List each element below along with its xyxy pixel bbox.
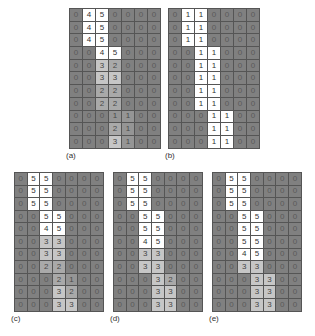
grid-cell: 1: [109, 111, 121, 123]
grid-cell: 0: [289, 198, 301, 210]
grid-cell: 0: [177, 299, 189, 311]
grid-cell: 3: [152, 299, 164, 311]
grid-cell: 1: [182, 34, 194, 46]
grid-cell: 0: [135, 47, 147, 59]
grid-cell: 4: [40, 223, 52, 235]
grid-cell: 0: [190, 261, 202, 273]
grid-cell: 0: [109, 34, 121, 46]
grid-cell: 0: [114, 236, 126, 248]
grid-cell: 0: [96, 123, 108, 135]
grid-cell: 0: [276, 274, 288, 286]
grid-cell: 3: [251, 299, 263, 311]
grid-cell: 3: [109, 136, 121, 148]
grid-cell: 0: [152, 198, 164, 210]
grid-cell: 5: [251, 211, 263, 223]
grid-cell: 3: [139, 249, 151, 261]
grid-e: 0550000055000005500000055000005500000550…: [212, 172, 302, 312]
grid-cell: 0: [177, 186, 189, 198]
grid-cell: 0: [165, 249, 177, 261]
grid-cell: 0: [122, 9, 134, 21]
grid-cell: 0: [114, 261, 126, 273]
grid-cell: 5: [40, 211, 52, 223]
grid-cell: 1: [221, 111, 233, 123]
grid-cell: 0: [289, 286, 301, 298]
grid-cell: 5: [40, 198, 52, 210]
grid-cell: 0: [289, 299, 301, 311]
grid-cell: 0: [70, 60, 82, 72]
grid-cell: 0: [165, 261, 177, 273]
grid-cell: 5: [238, 198, 250, 210]
grid-cell: 1: [208, 111, 220, 123]
grid-cell: 3: [53, 236, 65, 248]
grid-cell: 0: [177, 261, 189, 273]
grid-cell: 1: [195, 60, 207, 72]
grid-cell: 5: [28, 173, 40, 185]
grid-cell: 0: [276, 173, 288, 185]
panel-label-e: (e): [209, 314, 219, 323]
grid-cell: 0: [148, 47, 160, 59]
grid-d: 0550000055000005500000055000005500000450…: [113, 172, 203, 312]
grid-cell: 3: [40, 236, 52, 248]
grid-cell: 0: [169, 9, 181, 21]
grid-cell: 0: [234, 22, 246, 34]
grid-cell: 0: [91, 249, 103, 261]
grid-cell: 0: [127, 261, 139, 273]
grid-cell: 0: [70, 111, 82, 123]
grid-cell: 0: [264, 236, 276, 248]
grid-cell: 0: [66, 236, 78, 248]
grid-cell: 0: [96, 111, 108, 123]
panel-label-c: (c): [11, 314, 20, 323]
grid-cell: 0: [190, 236, 202, 248]
grid-cell: 1: [195, 34, 207, 46]
grid-cell: 5: [139, 186, 151, 198]
grid-cell: 0: [122, 85, 134, 97]
grid-cell: 0: [83, 98, 95, 110]
grid-cell: 2: [109, 123, 121, 135]
grid-cell: 0: [221, 98, 233, 110]
grid-cell: 5: [238, 173, 250, 185]
panel-d: 0550000055000005500000055000005500000450…: [113, 172, 203, 312]
grid-cell: 0: [289, 274, 301, 286]
grid-cell: 0: [122, 98, 134, 110]
grid-cell: 5: [127, 198, 139, 210]
grid-cell: 0: [91, 261, 103, 273]
grid-b: 0110000011000001100000011000001100000110…: [168, 8, 260, 149]
grid-cell: 5: [238, 223, 250, 235]
grid-cell: 0: [135, 34, 147, 46]
grid-cell: 3: [251, 261, 263, 273]
grid-cell: 1: [195, 22, 207, 34]
grid-cell: 0: [247, 85, 259, 97]
grid-cell: 0: [91, 274, 103, 286]
grid-cell: 3: [152, 286, 164, 298]
grid-cell: 0: [190, 198, 202, 210]
grid-cell: 0: [190, 211, 202, 223]
grid-cell: 0: [289, 173, 301, 185]
grid-cell: 0: [213, 261, 225, 273]
grid-cell: 0: [234, 123, 246, 135]
grid-cell: 0: [122, 60, 134, 72]
grid-cell: 0: [169, 85, 181, 97]
grid-cell: 0: [135, 136, 147, 148]
grid-cell: 2: [96, 98, 108, 110]
grid-cell: 0: [177, 173, 189, 185]
grid-c: 0550000055000005500000055000004500000330…: [14, 172, 104, 312]
grid-cell: 0: [190, 223, 202, 235]
grid-cell: 0: [226, 261, 238, 273]
grid-cell: 0: [28, 299, 40, 311]
grid-cell: 0: [169, 98, 181, 110]
grid-cell: 0: [182, 60, 194, 72]
grid-cell: 0: [127, 299, 139, 311]
grid-cell: 0: [165, 198, 177, 210]
grid-cell: 3: [53, 249, 65, 261]
grid-cell: 0: [177, 211, 189, 223]
grid-cell: 0: [66, 186, 78, 198]
grid-cell: 0: [276, 186, 288, 198]
grid-cell: 0: [28, 236, 40, 248]
grid-cell: 0: [78, 211, 90, 223]
grid-cell: 0: [53, 186, 65, 198]
grid-cell: 4: [83, 22, 95, 34]
grid-cell: 2: [165, 274, 177, 286]
grid-cell: 0: [177, 249, 189, 261]
grid-cell: 0: [91, 299, 103, 311]
grid-cell: 0: [127, 223, 139, 235]
